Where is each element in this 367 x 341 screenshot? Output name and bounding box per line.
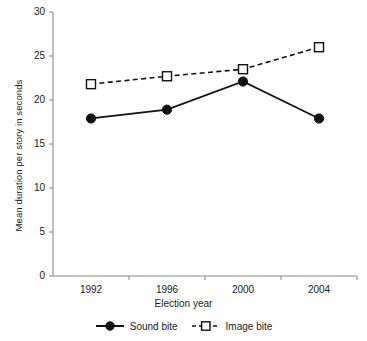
series-group (86, 43, 323, 123)
marker-sound-bite (238, 77, 247, 86)
series-line-sound-bite (91, 82, 319, 119)
marker-image-bite (239, 65, 248, 74)
y-tick-label: 5 (17, 227, 45, 237)
y-tick-label: 20 (17, 95, 45, 105)
series-line-image-bite (91, 47, 319, 84)
x-tick-label: 1996 (137, 285, 197, 295)
marker-image-bite (87, 80, 96, 89)
legend-label-sound-bite: Sound bite (128, 321, 178, 332)
x-tick-label: 2000 (213, 285, 273, 295)
y-tick-label: 10 (17, 183, 45, 193)
legend-symbol-filled-circle-solid-line (95, 320, 125, 332)
x-tick-label: 1992 (61, 285, 121, 295)
y-tick-label: 30 (17, 7, 45, 17)
y-tick-label: 0 (17, 271, 45, 281)
chart-legend: Sound bite Image bite (0, 320, 367, 332)
x-axis-title: Election year (0, 298, 367, 309)
marker-image-bite (315, 43, 324, 52)
legend-label-image-bite: Image bite (224, 321, 273, 332)
legend-item-sound-bite[interactable]: Sound bite (95, 320, 178, 332)
y-tick-label: 25 (17, 51, 45, 61)
marker-sound-bite (314, 114, 323, 123)
marker-sound-bite (86, 114, 95, 123)
marker-sound-bite (162, 105, 171, 114)
legend-item-image-bite[interactable]: Image bite (191, 320, 273, 332)
legend-symbol-open-square-dashed-line (191, 320, 221, 332)
x-tick-label: 2004 (289, 285, 349, 295)
y-tick-label: 15 (17, 139, 45, 149)
axes-group (49, 12, 357, 280)
marker-image-bite (163, 72, 172, 81)
chart-figure: Mean duration per story in seconds 05101… (0, 0, 367, 341)
